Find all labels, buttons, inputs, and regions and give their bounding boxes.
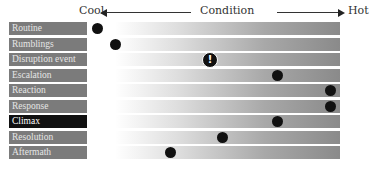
axis-line-left bbox=[106, 12, 191, 13]
condition-dot-icon bbox=[165, 147, 176, 158]
condition-dot-icon bbox=[272, 116, 283, 127]
phase-label-highlighted: Climax bbox=[9, 115, 87, 128]
phase-row-reaction: Reaction bbox=[0, 84, 373, 97]
phase-label: Escalation bbox=[9, 69, 87, 82]
phase-row-rumblings: Rumblings bbox=[0, 38, 373, 51]
arrow-right-icon bbox=[338, 9, 345, 17]
arrow-left-icon bbox=[100, 9, 107, 17]
condition-bar bbox=[90, 115, 340, 128]
phase-label: Routine bbox=[9, 22, 87, 35]
phase-row-resolution: Resolution bbox=[0, 131, 373, 144]
condition-dot-icon bbox=[110, 39, 121, 50]
condition-bar bbox=[90, 84, 340, 97]
phase-row-climax: Climax bbox=[0, 115, 373, 128]
axis-line-right bbox=[277, 12, 338, 13]
phase-row-response: Response bbox=[0, 100, 373, 113]
condition-dot-icon bbox=[325, 85, 336, 96]
condition-label: Condition bbox=[200, 4, 254, 18]
condition-dot-icon bbox=[217, 132, 228, 143]
alert-exclamation-icon: ! bbox=[202, 52, 218, 68]
phase-label: Reaction bbox=[9, 84, 87, 97]
condition-bar bbox=[90, 146, 340, 159]
phase-label: Rumblings bbox=[9, 38, 87, 51]
phase-label: Response bbox=[9, 100, 87, 113]
condition-bar bbox=[90, 131, 340, 144]
phase-row-escalation: Escalation bbox=[0, 69, 373, 82]
condition-bar bbox=[90, 100, 340, 113]
phase-label: Aftermath bbox=[9, 146, 87, 159]
condition-dot-icon bbox=[92, 23, 103, 34]
hot-label: Hot bbox=[348, 4, 369, 18]
phase-row-aftermath: Aftermath bbox=[0, 146, 373, 159]
condition-dot-icon bbox=[325, 101, 336, 112]
phase-label: Resolution bbox=[9, 131, 87, 144]
phase-row-routine: Routine bbox=[0, 22, 373, 35]
phase-row-disruption-event: Disruption event ! bbox=[0, 53, 373, 66]
condition-dot-icon bbox=[272, 70, 283, 81]
condition-bar bbox=[90, 38, 340, 51]
condition-bar bbox=[90, 22, 340, 35]
condition-bar bbox=[90, 69, 340, 82]
phase-label: Disruption event bbox=[9, 53, 87, 66]
